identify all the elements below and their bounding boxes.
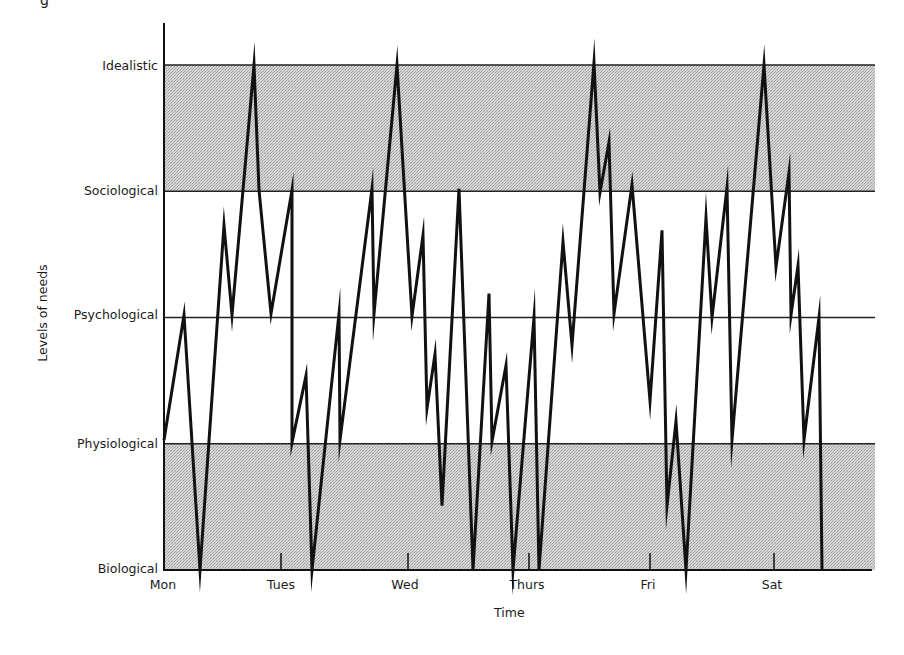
- x-label-wed: Wed: [391, 578, 418, 592]
- y-label-physiological: Physiological: [8, 437, 158, 451]
- x-label-sat: Sat: [762, 578, 783, 592]
- x-label-tues: Tues: [267, 578, 295, 592]
- y-label-biological: Biological: [8, 562, 158, 576]
- y-axis-title: Levels of needs: [36, 263, 50, 363]
- x-label-thurs: Thurs: [509, 578, 544, 592]
- x-label-mon: Mon: [150, 578, 176, 592]
- need-levels-chart: [0, 0, 904, 655]
- x-label-fri: Fri: [641, 578, 656, 592]
- y-label-sociological: Sociological: [8, 184, 158, 198]
- x-axis-title: Time: [494, 606, 525, 620]
- y-label-psychological: Psychological: [8, 308, 158, 322]
- y-label-idealistic: Idealistic: [8, 59, 158, 73]
